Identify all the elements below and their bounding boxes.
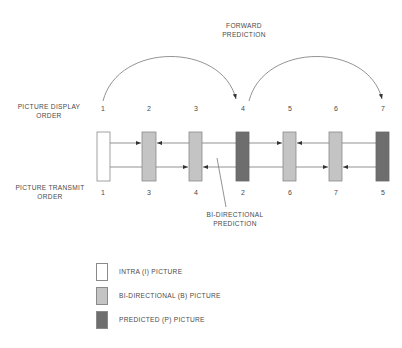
picture-2-bidirectional bbox=[142, 132, 156, 181]
display-number-6: 6 bbox=[329, 105, 343, 112]
legend-label-bidirectional: BI-DIRECTIONAL (B) PICTURE bbox=[119, 292, 221, 299]
transmit-number-1: 1 bbox=[96, 189, 110, 196]
picture-1-intra bbox=[97, 132, 110, 181]
transmit-number-4: 2 bbox=[236, 189, 250, 196]
transmit-number-3: 4 bbox=[189, 189, 203, 196]
picture-3-bidirectional bbox=[189, 132, 202, 181]
legend-swatch-intra bbox=[96, 263, 108, 281]
picture-4-predicted bbox=[236, 132, 249, 181]
legend-swatch-predicted bbox=[96, 311, 108, 329]
picture-5-bidirectional bbox=[283, 132, 296, 181]
display-number-5: 5 bbox=[283, 105, 297, 112]
transmit-number-7: 5 bbox=[376, 189, 390, 196]
legend-label-intra: INTRA (I) PICTURE bbox=[119, 268, 182, 275]
display-number-7: 7 bbox=[376, 105, 390, 112]
bidirectional-prediction-label: BI-DIRECTIONAL PREDICTION bbox=[200, 211, 270, 228]
legend-label-predicted: PREDICTED (P) PICTURE bbox=[119, 316, 205, 323]
forward-arc-1-to-4 bbox=[103, 56, 236, 101]
display-number-3: 3 bbox=[189, 105, 203, 112]
display-number-4: 4 bbox=[236, 105, 250, 112]
transmit-number-5: 6 bbox=[283, 189, 297, 196]
transmit-number-6: 7 bbox=[329, 189, 343, 196]
display-number-1: 1 bbox=[96, 105, 110, 112]
bidirectional-leader-line bbox=[217, 158, 226, 207]
picture-7-predicted bbox=[376, 132, 389, 181]
picture-6-bidirectional bbox=[329, 132, 342, 181]
forward-arc-4-to-7 bbox=[249, 56, 382, 101]
transmit-number-2: 3 bbox=[142, 189, 156, 196]
bidirectional-prediction-line1: BI-DIRECTIONAL bbox=[200, 211, 270, 220]
bidirectional-prediction-line2: PREDICTION bbox=[200, 220, 270, 229]
legend-swatch-bidirectional bbox=[96, 287, 108, 305]
display-number-2: 2 bbox=[142, 105, 156, 112]
